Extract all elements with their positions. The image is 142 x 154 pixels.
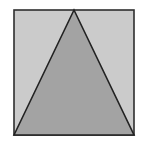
square-triangle-diagram <box>0 0 142 154</box>
